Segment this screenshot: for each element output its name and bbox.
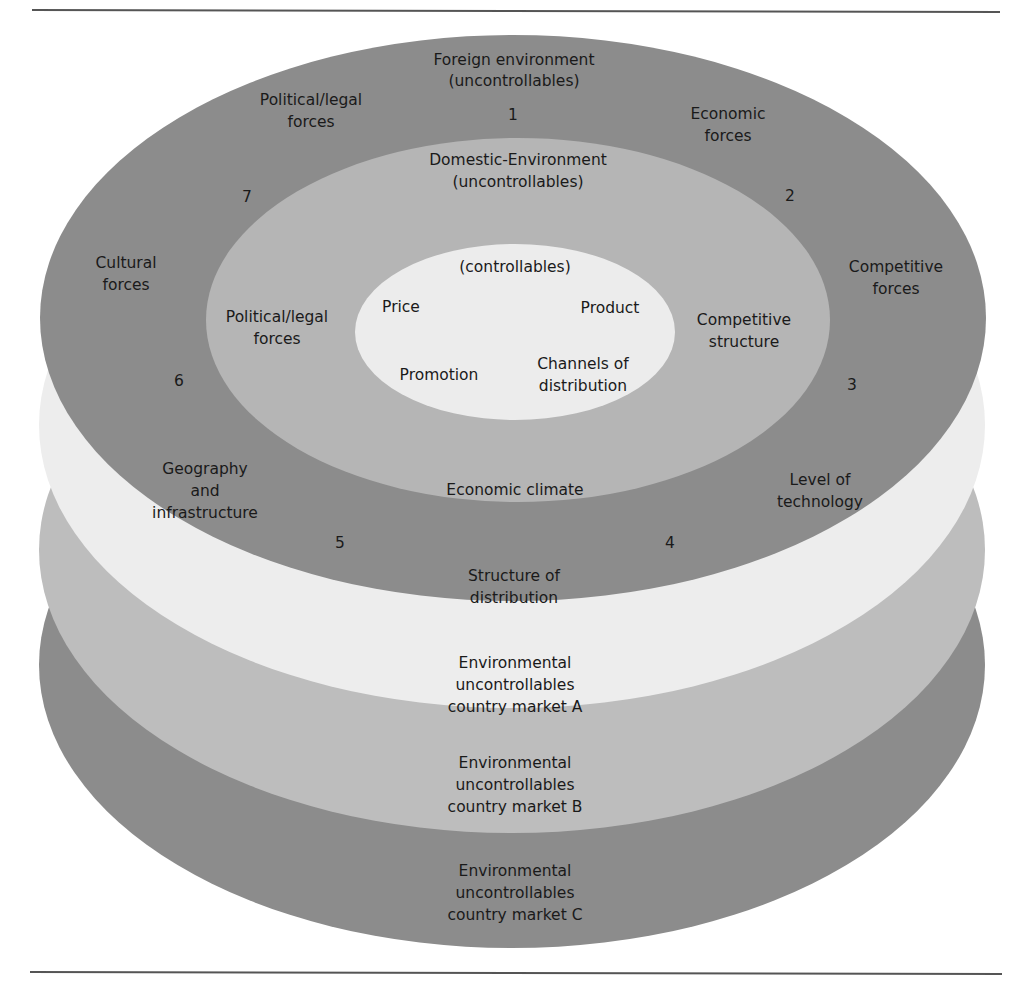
country-market-c-label: country market C [448, 906, 583, 924]
foreign-political-legal-forces: forces [287, 113, 334, 131]
controllable-promotion: Promotion [400, 366, 479, 384]
force-number-1: 1 [508, 106, 518, 124]
country-market-b-label: country market B [448, 798, 583, 816]
domestic-environment-subtitle: (uncontrollables) [452, 173, 583, 191]
cultural-forces: forces [102, 276, 149, 294]
force-number-5: 5 [335, 534, 345, 552]
force-number-4: 4 [665, 534, 675, 552]
controllable-channels-of-distribution: distribution [539, 377, 627, 395]
competitive-forces: Competitive [849, 258, 943, 276]
controllable-channels-of-distribution: Channels of [537, 355, 629, 373]
country-market-c-label: uncontrollables [456, 884, 575, 902]
foreign-environment-subtitle: (uncontrollables) [448, 72, 579, 90]
level-of-technology: Level of [790, 471, 851, 489]
domestic-political-legal-forces: Political/legal [226, 308, 328, 326]
competitive-structure: structure [709, 333, 779, 351]
structure-of-distribution: distribution [470, 589, 558, 607]
domestic-political-legal-forces: forces [253, 330, 300, 348]
force-number-7: 7 [242, 188, 252, 206]
country-market-a-label: country market A [448, 698, 583, 716]
structure-of-distribution: Structure of [468, 567, 561, 585]
cultural-forces: Cultural [95, 254, 156, 272]
geography-and-infrastructure: and [190, 482, 219, 500]
controllable-price: Price [382, 298, 420, 316]
country-market-b-label: uncontrollables [456, 776, 575, 794]
controllables-title: (controllables) [459, 258, 570, 276]
geography-and-infrastructure: Geography [162, 460, 248, 478]
country-market-c-label: Environmental [459, 862, 572, 880]
international-marketing-environment-diagram: Foreign environment (uncontrollables) 1 … [0, 0, 1031, 991]
bottom-rule [30, 972, 1002, 974]
foreign-environment-title: Foreign environment [433, 51, 594, 69]
domestic-environment-title: Domestic-Environment [429, 151, 607, 169]
force-number-2: 2 [785, 187, 795, 205]
competitive-forces: forces [872, 280, 919, 298]
economic-climate: Economic climate [446, 481, 583, 499]
country-market-a-label: Environmental [459, 654, 572, 672]
force-number-6: 6 [174, 372, 184, 390]
controllable-product: Product [581, 299, 640, 317]
top-rule [32, 10, 1000, 12]
competitive-structure: Competitive [697, 311, 791, 329]
force-number-3: 3 [847, 376, 857, 394]
geography-and-infrastructure: infrastructure [152, 504, 258, 522]
foreign-political-legal-forces: Political/legal [260, 91, 362, 109]
economic-forces: Economic [690, 105, 765, 123]
country-market-a-label: uncontrollables [456, 676, 575, 694]
level-of-technology: technology [777, 493, 863, 511]
economic-forces: forces [704, 127, 751, 145]
country-market-b-label: Environmental [459, 754, 572, 772]
